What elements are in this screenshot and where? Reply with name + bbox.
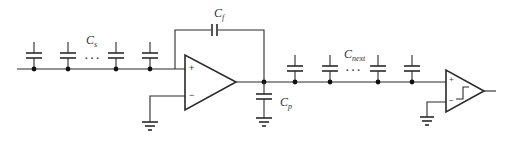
circuit-schematic xyxy=(0,0,508,142)
label-cnext: Cnext xyxy=(344,48,365,63)
input-capacitor xyxy=(26,42,42,71)
parasitic-capacitor xyxy=(256,82,272,126)
label-cp-main: C xyxy=(280,95,288,109)
opamp-plus-sign: + xyxy=(189,64,194,73)
comparator-plus-sign: + xyxy=(449,76,454,84)
next-capacitor xyxy=(287,55,303,84)
next-capacitor xyxy=(370,55,386,84)
label-cs-sub: s xyxy=(94,40,97,49)
label-cs-main: C xyxy=(86,33,94,47)
ellipsis-next: ··· xyxy=(345,64,362,78)
label-cnext-main: C xyxy=(344,47,352,61)
label-cf-main: C xyxy=(214,6,222,20)
label-cf: Cf xyxy=(214,7,224,22)
label-cs: Cs xyxy=(86,34,97,49)
label-cp-sub: p xyxy=(288,102,292,111)
input-capacitor xyxy=(60,42,76,71)
input-capacitor xyxy=(108,42,124,71)
next-capacitor xyxy=(404,55,420,84)
hysteresis-icon xyxy=(456,87,469,99)
label-cp: Cp xyxy=(280,96,292,111)
comparator xyxy=(420,70,496,125)
next-capacitor xyxy=(322,55,338,84)
ellipsis-input: ··· xyxy=(84,52,101,66)
output-wire xyxy=(236,80,446,85)
label-cf-sub: f xyxy=(222,13,224,22)
comparator-minus-sign: − xyxy=(449,97,454,105)
opamp-minus-sign: − xyxy=(189,91,194,100)
input-capacitor xyxy=(142,42,158,71)
